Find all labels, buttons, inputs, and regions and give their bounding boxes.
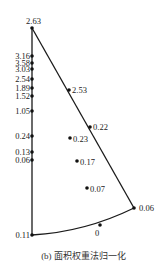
data-point (30, 26, 34, 30)
point-label: 1.05 (15, 107, 30, 116)
data-point (30, 233, 34, 237)
data-point (30, 61, 34, 65)
point-label: 3.03 (15, 65, 30, 74)
data-point (88, 125, 92, 129)
point-label: 0.06 (139, 204, 154, 213)
point-label: 2.53 (72, 86, 87, 95)
data-point (68, 136, 72, 140)
point-label: 2.63 (26, 17, 41, 26)
data-point (98, 223, 102, 227)
data-point (30, 109, 34, 113)
data-point (30, 54, 34, 58)
point-label: 0.17 (80, 158, 95, 167)
data-point (85, 186, 89, 190)
data-point (30, 134, 34, 138)
data-point (30, 94, 34, 98)
point-label: 0.07 (90, 185, 105, 194)
point-label: 0.06 (15, 156, 30, 165)
point-label: 0.11 (15, 231, 30, 240)
data-point (75, 159, 79, 163)
data-point (30, 67, 34, 71)
data-point (30, 150, 34, 154)
data-point (30, 158, 34, 162)
point-label: 0.23 (73, 135, 88, 144)
bottom-arc (32, 208, 134, 235)
data-point (132, 206, 136, 210)
figure-caption: (b) 面积权重法归一化 (0, 249, 167, 262)
point-label: 0 (95, 229, 99, 238)
point-label: 1.52 (15, 92, 30, 101)
data-point (30, 77, 34, 81)
point-label: 0.22 (93, 123, 108, 132)
data-points (30, 26, 136, 237)
data-point (67, 88, 71, 92)
diagonal-edge (32, 28, 134, 208)
point-label: 0.24 (15, 132, 30, 141)
data-point (30, 86, 34, 90)
